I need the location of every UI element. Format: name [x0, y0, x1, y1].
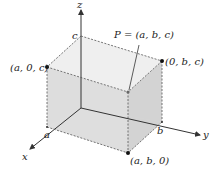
- point-a0c-label: (a, 0, c): [10, 62, 49, 73]
- point-ab0-label: (a, b, 0): [130, 155, 169, 166]
- point-0bc: [160, 59, 164, 63]
- tick-a-label: a: [44, 129, 50, 140]
- point-b: [161, 121, 163, 123]
- point-a: [46, 126, 48, 128]
- coordinate-box-diagram: z x y c a b P = (a, b, c) (a, 0, c) (0, …: [0, 0, 218, 174]
- point-0bc-label: (0, b, c): [165, 56, 204, 67]
- tick-b-label: b: [157, 125, 163, 136]
- y-axis-label: y: [202, 129, 209, 140]
- point-p-label: P = (a, b, c): [113, 29, 174, 40]
- tick-c-label: c: [72, 30, 78, 41]
- z-axis-label: z: [76, 0, 83, 10]
- point-p: [126, 90, 129, 93]
- x-axis-label: x: [22, 151, 28, 162]
